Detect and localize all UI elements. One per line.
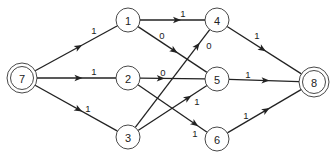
nodes-layer: 71234568 [7, 8, 329, 151]
arrowhead-icon [169, 46, 179, 56]
arrowhead-icon [183, 93, 193, 103]
arrowhead-icon [261, 105, 271, 115]
edges-layer [35, 17, 301, 133]
edge-6-8 [227, 90, 301, 133]
edge-capacity-label: 1 [192, 128, 197, 139]
edge-5-8 [229, 77, 299, 84]
node-label: 4 [214, 15, 220, 27]
edge-capacity-label: 1 [245, 69, 250, 80]
node-6: 6 [205, 127, 229, 151]
edge-line [35, 26, 117, 71]
node-1: 1 [116, 8, 140, 32]
node-label: 3 [125, 132, 131, 144]
edge-capacity-label: 1 [243, 110, 248, 121]
flow-network-diagram: 111100101111 71234568 [0, 0, 335, 155]
edge-1-5 [138, 27, 207, 73]
node-label: 2 [125, 73, 131, 85]
edge-labels-layer: 111100101111 [85, 8, 259, 139]
arrowhead-icon [257, 44, 267, 54]
edge-capacity-label: 1 [85, 103, 90, 114]
node-label: 7 [19, 73, 25, 85]
edge-1-4 [140, 17, 205, 23]
edge-4-8 [227, 26, 301, 73]
node-label: 5 [214, 74, 220, 86]
edge-7-3 [35, 85, 117, 131]
edge-line [138, 27, 207, 73]
edge-capacity-label: 1 [91, 66, 96, 77]
node-2: 2 [116, 66, 140, 90]
edge-capacity-label: 0 [159, 30, 164, 41]
edge-line [227, 90, 301, 133]
arrowhead-icon [74, 105, 84, 114]
edge-capacity-label: 1 [91, 25, 96, 36]
edge-7-2 [37, 75, 116, 81]
arrowhead-icon [74, 42, 84, 51]
node-label: 8 [311, 77, 317, 89]
edge-capacity-label: 1 [180, 8, 185, 19]
edge-capacity-label: 0 [206, 40, 211, 51]
node-8: 8 [299, 67, 329, 97]
node-3: 3 [116, 125, 140, 149]
node-label: 6 [214, 134, 220, 146]
node-7: 7 [7, 63, 37, 93]
node-5: 5 [205, 67, 229, 91]
edge-capacity-label: 1 [194, 96, 199, 107]
edge-line [35, 85, 117, 131]
node-4: 4 [205, 8, 229, 32]
edge-capacity-label: 0 [160, 67, 165, 78]
edge-7-1 [35, 26, 117, 71]
edge-capacity-label: 1 [254, 30, 259, 41]
node-label: 1 [125, 15, 131, 27]
